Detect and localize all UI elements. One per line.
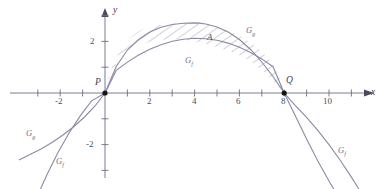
point-label-Q: Q <box>286 76 293 86</box>
curve-label-sub: f <box>62 162 64 168</box>
x-tick-label-8: 8 <box>281 97 286 106</box>
x-tick-label-10: 10 <box>323 97 332 106</box>
region-label-A: A <box>207 33 213 42</box>
y-axis-label: y <box>113 6 117 16</box>
x-tick-label-4: 4 <box>192 97 197 106</box>
curve-label-gg-lower-left: Gg <box>26 129 35 140</box>
curve-gg-path <box>19 23 336 189</box>
curve-label-sub: f <box>191 61 193 67</box>
curve-label-gf-lower-right: Gf <box>338 146 346 157</box>
curve-label-gf-mid: Gf <box>185 56 193 67</box>
y-tick-label-2: 2 <box>90 37 95 46</box>
x-axis-label: x <box>371 88 375 98</box>
curve-label-sub: g <box>252 31 255 37</box>
graph-figure: x y -2 2 4 6 8 10 2 -2 P Q A Gg Gf Gg Gf… <box>0 0 392 189</box>
curve-label-gg-upper: Gg <box>246 26 255 37</box>
point-label-P: P <box>95 78 101 88</box>
point-Q <box>282 90 287 95</box>
curve-label-sub: f <box>344 151 346 157</box>
curve-label-sub: g <box>32 134 35 140</box>
curve-label-gf-lower-left: Gf <box>56 157 64 168</box>
x-tick-label-neg2: -2 <box>55 97 63 106</box>
x-tick-label-2: 2 <box>147 97 152 106</box>
y-tick-label-neg2: -2 <box>86 140 94 149</box>
point-P <box>102 90 107 95</box>
x-tick-label-6: 6 <box>236 97 241 106</box>
